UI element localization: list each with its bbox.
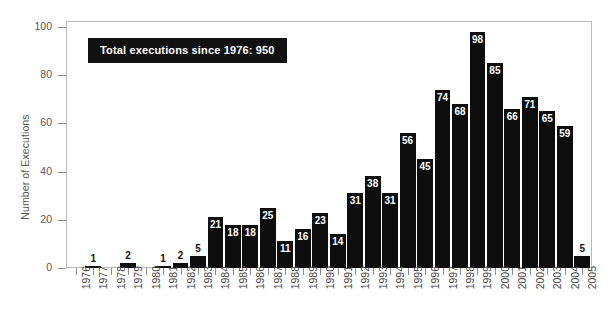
bar-value-label: 21 bbox=[208, 219, 224, 230]
x-axis-tick-label: 1979 bbox=[132, 264, 144, 324]
y-axis-tick: 100 bbox=[0, 27, 66, 28]
bar[interactable] bbox=[435, 90, 451, 268]
bar-slot[interactable]: 23 bbox=[312, 22, 328, 268]
x-axis-tick-label: 1986 bbox=[254, 264, 266, 324]
bar[interactable] bbox=[557, 126, 573, 268]
bar-value-label: 18 bbox=[225, 227, 241, 238]
bar-slot[interactable] bbox=[68, 22, 84, 268]
bar-slot[interactable]: 74 bbox=[435, 22, 451, 268]
x-axis-tick-label: 1978 bbox=[115, 264, 127, 324]
bar-value-label: 98 bbox=[470, 34, 486, 45]
x-axis-tick-label: 1985 bbox=[237, 264, 249, 324]
x-axis: 1976197719781979198019811982198319841985… bbox=[66, 268, 592, 334]
bar-value-label: 85 bbox=[487, 65, 503, 76]
x-axis-tick-mark bbox=[198, 268, 199, 275]
x-axis-tick-label: 2003 bbox=[551, 264, 563, 324]
x-axis-tick-mark bbox=[215, 268, 216, 275]
y-axis-tick-mark bbox=[58, 123, 66, 124]
x-axis-tick-label: 1997 bbox=[447, 264, 459, 324]
y-axis-tick: 40 bbox=[0, 172, 66, 173]
bar-slot[interactable]: 38 bbox=[365, 22, 381, 268]
x-axis-tick-mark bbox=[146, 268, 147, 275]
x-axis-tick-mark bbox=[303, 268, 304, 275]
y-axis-tick-mark bbox=[58, 172, 66, 173]
bar-slot[interactable]: 71 bbox=[522, 22, 538, 268]
x-axis-tick-label: 1996 bbox=[429, 264, 441, 324]
bar-slot[interactable]: 85 bbox=[487, 22, 503, 268]
x-axis-tick-mark bbox=[477, 268, 478, 275]
bar-value-label: 11 bbox=[277, 243, 293, 254]
bar[interactable] bbox=[400, 133, 416, 268]
x-axis-tick-mark bbox=[111, 268, 112, 275]
x-axis-tick-mark bbox=[355, 268, 356, 275]
bar-slot[interactable]: 65 bbox=[539, 22, 555, 268]
x-axis-tick-label: 1995 bbox=[412, 264, 424, 324]
y-axis-tick-mark bbox=[58, 220, 66, 221]
x-axis-tick-label: 1981 bbox=[167, 264, 179, 324]
y-axis-tick: 60 bbox=[0, 123, 66, 124]
x-axis-tick-label: 2000 bbox=[499, 264, 511, 324]
bar-value-label: 45 bbox=[417, 161, 433, 172]
x-axis-tick-mark bbox=[338, 268, 339, 275]
bar-slot[interactable]: 56 bbox=[400, 22, 416, 268]
bar-slot[interactable]: 31 bbox=[382, 22, 398, 268]
bar-slot[interactable]: 59 bbox=[557, 22, 573, 268]
x-axis-tick-label: 1998 bbox=[464, 264, 476, 324]
bar-slot[interactable]: 5 bbox=[574, 22, 590, 268]
bar-slot[interactable]: 45 bbox=[417, 22, 433, 268]
bar-value-label: 2 bbox=[117, 250, 139, 261]
x-axis-tick-mark bbox=[233, 268, 234, 275]
x-axis-tick-mark bbox=[460, 268, 461, 275]
x-axis-tick-label: 2002 bbox=[534, 264, 546, 324]
bar-value-label: 31 bbox=[347, 195, 363, 206]
bar[interactable] bbox=[522, 97, 538, 268]
x-axis-tick-label: 1977 bbox=[97, 264, 109, 324]
x-axis-tick-label: 1980 bbox=[150, 264, 162, 324]
x-axis-tick-label: 1991 bbox=[342, 264, 354, 324]
x-axis-tick-mark bbox=[408, 268, 409, 275]
x-axis-tick-label: 2001 bbox=[516, 264, 528, 324]
y-axis-tick-mark bbox=[58, 75, 66, 76]
x-axis-tick-mark bbox=[76, 268, 77, 275]
x-axis-tick-label: 1994 bbox=[394, 264, 406, 324]
bar[interactable] bbox=[452, 104, 468, 268]
bar[interactable] bbox=[504, 109, 520, 268]
x-axis-tick-label: 1976 bbox=[80, 264, 92, 324]
x-axis-tick-mark bbox=[565, 268, 566, 275]
bar-slot[interactable]: 98 bbox=[470, 22, 486, 268]
x-axis-tick-mark bbox=[285, 268, 286, 275]
bar-value-label: 65 bbox=[539, 113, 555, 124]
x-axis-tick-label: 1988 bbox=[289, 264, 301, 324]
bar-value-label: 1 bbox=[82, 253, 104, 264]
x-axis-tick-mark bbox=[390, 268, 391, 275]
x-axis-tick-label: 1987 bbox=[272, 264, 284, 324]
y-axis-tick-label: 0 bbox=[46, 261, 52, 273]
x-axis-tick-label: 1984 bbox=[219, 264, 231, 324]
bar-slot[interactable]: 16 bbox=[295, 22, 311, 268]
bar-value-label: 56 bbox=[400, 135, 416, 146]
x-axis-tick-label: 1992 bbox=[359, 264, 371, 324]
bar[interactable] bbox=[487, 63, 503, 268]
bar-slot[interactable]: 66 bbox=[504, 22, 520, 268]
bar[interactable] bbox=[470, 32, 486, 268]
x-axis-tick-mark bbox=[373, 268, 374, 275]
x-axis-tick-label: 1983 bbox=[202, 264, 214, 324]
bar[interactable] bbox=[539, 111, 555, 268]
x-axis-tick-mark bbox=[530, 268, 531, 275]
x-axis-tick-mark bbox=[582, 268, 583, 275]
bar[interactable] bbox=[417, 159, 433, 268]
bar-value-label: 23 bbox=[312, 215, 328, 226]
x-axis-tick-label: 1989 bbox=[307, 264, 319, 324]
bar-slot[interactable]: 14 bbox=[330, 22, 346, 268]
bar-value-label: 16 bbox=[295, 231, 311, 242]
bar-value-label: 5 bbox=[187, 243, 209, 254]
bar-value-label: 71 bbox=[522, 99, 538, 110]
y-axis-tick: 80 bbox=[0, 75, 66, 76]
y-axis-title: Number of Executions bbox=[14, 0, 36, 334]
x-axis-tick-mark bbox=[495, 268, 496, 275]
y-axis-tick-mark bbox=[58, 27, 66, 28]
y-axis-tick-label: 40 bbox=[40, 165, 52, 177]
bar[interactable] bbox=[365, 176, 381, 268]
bar-slot[interactable]: 31 bbox=[347, 22, 363, 268]
bar-slot[interactable]: 68 bbox=[452, 22, 468, 268]
